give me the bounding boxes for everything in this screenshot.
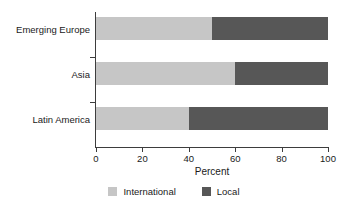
bar-segment-local [235, 62, 328, 85]
x-axis-tick-label: 100 [320, 153, 336, 164]
bar-latin-america [96, 107, 328, 130]
chart-legend: International Local [0, 186, 348, 197]
bar-segment-local [212, 17, 328, 40]
legend-item-international: International [108, 186, 175, 197]
legend-label-local: Local [217, 186, 240, 197]
legend-label-international: International [123, 186, 175, 197]
category-label-latin-america: Latin America [32, 114, 90, 125]
category-label-emerging-europe: Emerging Europe [16, 24, 90, 35]
stacked-bar-chart: Emerging Europe Asia Latin America 0 20 … [0, 0, 348, 208]
bar-segment-international [96, 107, 189, 130]
x-axis-tick [142, 147, 143, 152]
x-axis-tick-label: 20 [137, 153, 148, 164]
x-axis-line [96, 147, 329, 148]
x-axis-tick-label: 40 [184, 153, 195, 164]
x-axis-tick-label: 0 [93, 153, 98, 164]
x-axis-tick [328, 147, 329, 152]
bar-segment-international [96, 17, 212, 40]
x-axis-tick-label: 80 [276, 153, 287, 164]
legend-swatch-icon [202, 187, 211, 196]
x-axis-title: Percent [96, 166, 328, 178]
x-axis-tick [189, 147, 190, 152]
x-axis-tick-label: 60 [230, 153, 241, 164]
bar-segment-international [96, 62, 235, 85]
legend-swatch-icon [108, 187, 117, 196]
y-axis-tick [90, 57, 96, 58]
category-label-asia: Asia [72, 69, 90, 80]
y-axis-tick [90, 102, 96, 103]
legend-item-local: Local [202, 186, 240, 197]
x-axis-tick [96, 147, 97, 152]
bar-asia [96, 62, 328, 85]
x-axis-tick [282, 147, 283, 152]
bar-segment-local [189, 107, 328, 130]
bar-emerging-europe [96, 17, 328, 40]
x-axis-tick [235, 147, 236, 152]
